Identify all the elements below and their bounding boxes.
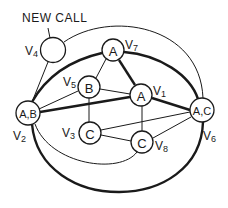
node-v7-name: V7	[125, 38, 138, 53]
node-v8: C V8	[131, 131, 168, 154]
edge-v2-v1	[40, 97, 130, 112]
node-v7: A V7	[102, 38, 138, 61]
edge-v5-v1	[100, 89, 130, 94]
node-v3-label: C	[85, 127, 94, 142]
node-v3-name: V3	[62, 126, 75, 141]
node-v1-label: A	[137, 89, 146, 104]
node-v5-name: V5	[63, 75, 76, 90]
node-v2-label: A,B	[19, 108, 37, 120]
node-v2: A,B V2	[13, 101, 40, 144]
node-v1-name: V1	[153, 84, 166, 99]
node-v6: A,C V6	[190, 98, 216, 144]
edge-v8-v6	[153, 117, 191, 138]
node-v2-name: V2	[13, 129, 26, 144]
node-v1: A V1	[130, 84, 166, 106]
node-v4: V4	[25, 38, 66, 63]
edge-v3-v6	[101, 112, 190, 130]
edge-v3-v8	[101, 135, 131, 141]
node-v4-name: V4	[25, 44, 38, 59]
node-v3: C V3	[62, 122, 101, 144]
edge-v1-v6	[152, 98, 190, 110]
node-v8-label: C	[137, 136, 146, 151]
node-v6-label: A,C	[193, 105, 211, 117]
edge-v7-v5	[96, 59, 106, 78]
node-v5: B V5	[63, 75, 100, 98]
edge-v2-v6-arc	[32, 122, 203, 192]
edge-v7-v1	[119, 60, 135, 85]
node-v5-label: B	[85, 81, 94, 96]
node-v6-name: V6	[203, 129, 216, 144]
node-v7-label: A	[109, 44, 118, 59]
node-v8-name: V8	[155, 139, 168, 154]
call-graph-diagram: NEW CALL V4 A V7 B V5 A V1 A,B V2 A,C V6…	[0, 0, 228, 208]
new-call-label: NEW CALL	[22, 11, 87, 25]
